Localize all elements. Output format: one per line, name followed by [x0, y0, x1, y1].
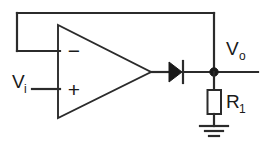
- inverting-input-sign: −: [68, 39, 80, 62]
- resistor-body: [208, 90, 222, 114]
- input-voltage-label: V i: [12, 71, 27, 96]
- output-junction: [210, 68, 258, 76]
- load-resistor-branch: [208, 72, 222, 126]
- vo-main: V: [226, 38, 239, 59]
- vi-subscript: i: [24, 82, 27, 96]
- diode: [169, 61, 214, 83]
- output-voltage-label: V o: [226, 38, 246, 63]
- r1-main: R: [226, 91, 240, 112]
- diode-anode-triangle: [169, 62, 182, 82]
- resistor-label: R 1: [226, 91, 246, 116]
- feedback-path: [17, 13, 214, 72]
- vo-subscript: o: [239, 49, 246, 63]
- circuit-diagram: − + V i V o R 1: [0, 0, 265, 146]
- ground: [200, 126, 228, 136]
- noninverting-input-sign: +: [68, 78, 80, 101]
- circuit-canvas: − + V i V o R 1: [0, 0, 265, 146]
- r1-subscript: 1: [239, 102, 246, 116]
